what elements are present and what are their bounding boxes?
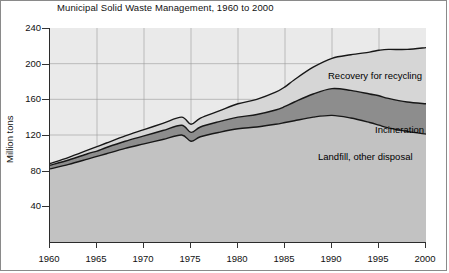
y-axis-tick-marks: [42, 1, 49, 272]
y-axis-tickmark-40: [42, 206, 49, 207]
y-axis-tick-160: 160: [11, 94, 41, 104]
series-annotation-landfill: Landfill, other disposal: [318, 151, 413, 162]
x-axis-tickmark-1995: [378, 242, 379, 248]
x-axis-tickmark-1985: [284, 242, 285, 248]
x-axis-tickmark-1960: [49, 242, 50, 248]
y-axis-tick-80: 80: [11, 166, 41, 176]
x-axis-tick-1975: 1975: [179, 253, 200, 264]
y-axis-tickmark-120: [42, 135, 49, 136]
series-annotation-incineration: Incineration: [375, 124, 424, 135]
x-axis-tick-1980: 1980: [226, 253, 247, 264]
x-axis-tick-1960: 1960: [38, 253, 59, 264]
x-axis-tickmark-1975: [190, 242, 191, 248]
plot-area: [49, 28, 426, 243]
chart-figure: Municipal Solid Waste Management, 1960 t…: [0, 0, 447, 271]
x-axis-tickmark-2000: [425, 242, 426, 248]
y-axis-tick-40: 40: [11, 201, 41, 211]
x-axis-tick-1995: 1995: [367, 253, 388, 264]
y-axis-tickmark-200: [42, 64, 49, 65]
y-axis-tick-labels: 4080120160200240: [9, 1, 41, 272]
y-axis-tickmark-240: [42, 28, 49, 29]
x-axis-tickmark-1990: [331, 242, 332, 248]
x-axis-tick-2000: 2000: [414, 253, 435, 264]
x-axis-tick-1970: 1970: [132, 253, 153, 264]
y-axis-tickmark-160: [42, 99, 49, 100]
y-axis-tick-200: 200: [11, 59, 41, 69]
y-axis-tick-240: 240: [11, 23, 41, 33]
series-annotation-recovery: Recovery for recycling: [328, 70, 422, 81]
x-axis-tick-1965: 1965: [85, 253, 106, 264]
x-axis-tick-1990: 1990: [320, 253, 341, 264]
y-axis-tickmark-80: [42, 171, 49, 172]
x-axis-tickmark-1970: [143, 242, 144, 248]
x-axis-tickmark-1980: [237, 242, 238, 248]
x-axis-tick-1985: 1985: [273, 253, 294, 264]
x-axis-tickmark-1965: [96, 242, 97, 248]
stacked-area-svg: [50, 28, 426, 242]
y-axis-tick-120: 120: [11, 130, 41, 140]
chart-title: Municipal Solid Waste Management, 1960 t…: [57, 2, 274, 13]
